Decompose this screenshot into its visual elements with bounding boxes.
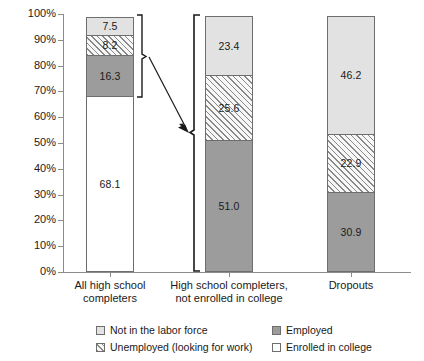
y-axis-tick xyxy=(58,143,63,144)
bar-segment[interactable]: 7.5 xyxy=(86,17,134,36)
bar-segment[interactable]: 46.2 xyxy=(327,16,375,135)
target-bracket xyxy=(190,15,200,271)
bar-segment-value: 22.9 xyxy=(339,158,362,169)
category-label-line: Dropouts xyxy=(283,279,419,292)
x-axis-tick xyxy=(351,272,352,277)
y-axis-tick-label: 20% xyxy=(10,214,56,225)
category-label-line: High school completers, xyxy=(161,279,297,292)
y-axis-line xyxy=(63,14,64,272)
bar-segment[interactable]: 22.9 xyxy=(327,134,375,193)
bar-segment-value: 68.1 xyxy=(98,179,121,190)
annotation-arrow-line xyxy=(149,57,186,128)
bar-segment-value: 51.0 xyxy=(217,201,240,212)
bar-segment-value: 25.6 xyxy=(217,103,240,114)
category-label-completers-not-enrolled: High school completers,not enrolled in c… xyxy=(161,279,297,305)
y-axis-tick-label: 70% xyxy=(10,85,56,96)
category-label-line: completers xyxy=(42,292,178,305)
bar-segment[interactable]: 30.9 xyxy=(327,192,375,272)
legend-label: Employed xyxy=(286,325,333,336)
annotation-arrow-head-2 xyxy=(178,125,189,134)
bar-segment-value: 46.2 xyxy=(339,70,362,81)
category-label-line: not enrolled in college xyxy=(161,292,297,305)
bar-segment[interactable]: 51.0 xyxy=(205,140,253,272)
legend-swatch-icon xyxy=(272,343,281,352)
legend-label: Unemployed (looking for work) xyxy=(110,342,252,353)
source-bracket xyxy=(137,15,146,97)
y-axis-tick xyxy=(58,169,63,170)
x-axis-tick xyxy=(110,272,111,277)
bar-all-high-school-completers[interactable]: 7.58.216.368.1 xyxy=(86,17,134,272)
bar-dropouts[interactable]: 46.222.930.9 xyxy=(327,16,375,272)
bar-segment[interactable]: 8.2 xyxy=(86,35,134,56)
x-axis-line xyxy=(63,272,411,273)
bar-segment-value: 7.5 xyxy=(101,21,118,32)
bar-segment-value: 16.3 xyxy=(98,71,121,82)
y-axis-tick-label: 80% xyxy=(10,60,56,71)
y-axis-tick-label: 10% xyxy=(10,240,56,251)
legend-item[interactable]: Employed xyxy=(272,325,406,336)
bar-segment[interactable]: 68.1 xyxy=(86,96,134,272)
legend-label: Enrolled in college xyxy=(286,342,372,353)
y-axis-tick xyxy=(58,246,63,247)
chart-legend: Not in the labor forceEmployedUnemployed… xyxy=(96,322,406,356)
legend-swatch-icon xyxy=(96,343,105,352)
bar-segment[interactable]: 23.4 xyxy=(205,16,253,76)
y-axis-tick xyxy=(58,117,63,118)
bar-segment[interactable]: 25.6 xyxy=(205,75,253,141)
y-axis-tick-label: 30% xyxy=(10,189,56,200)
bar-segment-value: 23.4 xyxy=(217,41,240,52)
bar-completers-not-enrolled[interactable]: 23.425.651.0 xyxy=(205,16,253,272)
y-axis-tick xyxy=(58,272,63,273)
annotation-arrow-head xyxy=(179,124,188,133)
y-axis-tick xyxy=(58,66,63,67)
y-axis-tick xyxy=(58,91,63,92)
stacked-bar-chart: 100%90%80%70%60%50%40%30%20%10%0% 7.58.2… xyxy=(0,0,424,361)
legend-item[interactable]: Enrolled in college xyxy=(272,342,406,353)
category-label-all-high-school-completers: All high schoolcompleters xyxy=(42,279,178,305)
legend-swatch-icon xyxy=(96,326,105,335)
y-axis-tick xyxy=(58,220,63,221)
y-axis-tick-label: 90% xyxy=(10,34,56,45)
y-axis-tick-label: 60% xyxy=(10,111,56,122)
legend-label: Not in the labor force xyxy=(110,325,207,336)
y-axis-tick xyxy=(58,14,63,15)
category-label-dropouts: Dropouts xyxy=(283,279,419,292)
y-axis-tick xyxy=(58,195,63,196)
legend-item[interactable]: Not in the labor force xyxy=(96,325,272,336)
y-axis-tick xyxy=(58,40,63,41)
bar-segment-value: 30.9 xyxy=(339,227,362,238)
y-axis-tick-label: 100% xyxy=(10,8,56,19)
category-label-line: All high school xyxy=(42,279,178,292)
legend-item[interactable]: Unemployed (looking for work) xyxy=(96,342,272,353)
legend-swatch-icon xyxy=(272,326,281,335)
bar-segment-value: 8.2 xyxy=(101,40,118,51)
bar-segment[interactable]: 16.3 xyxy=(86,55,134,97)
y-axis-tick-label: 50% xyxy=(10,137,56,148)
y-axis-tick-label: 0% xyxy=(10,266,56,277)
x-axis-tick xyxy=(229,272,230,277)
y-axis-tick-label: 40% xyxy=(10,163,56,174)
